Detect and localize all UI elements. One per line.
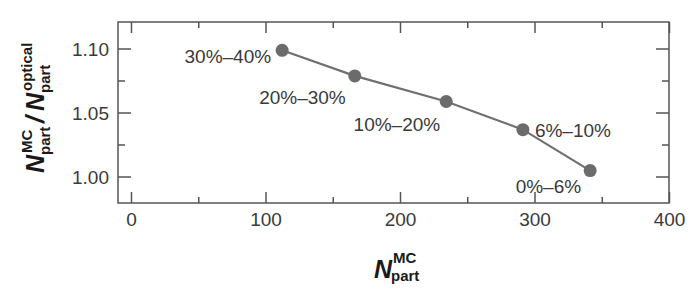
y-axis-tick-labels: 1.001.051.10 xyxy=(72,39,109,188)
point-label: 20%–30% xyxy=(259,87,346,108)
y-axis-title-num-sub: part xyxy=(36,127,53,155)
point-label: 6%–10% xyxy=(535,120,611,141)
x-axis-tick-labels: 0100200300400 xyxy=(126,209,685,230)
y-tick-label: 1.00 xyxy=(72,167,109,188)
y-axis-title-den-sub: part xyxy=(36,65,53,93)
data-point-marker xyxy=(516,123,529,136)
y-axis-title: N MC part / N optical part xyxy=(18,43,53,173)
y-axis-title-sep: / xyxy=(21,113,49,124)
x-tick-label: 200 xyxy=(385,209,417,230)
x-tick-label: 300 xyxy=(519,209,551,230)
y-axis-title-num-sup: MC xyxy=(18,130,35,153)
y-tick-label: 1.10 xyxy=(72,39,109,60)
point-label: 0%–6% xyxy=(516,176,582,197)
x-axis-title: N MC part xyxy=(374,249,419,284)
data-point-marker xyxy=(440,95,453,108)
point-label: 10%–20% xyxy=(354,114,441,135)
point-labels: 30%–40%20%–30%10%–20%6%–10%0%–6% xyxy=(185,46,612,196)
data-point-marker xyxy=(584,164,597,177)
data-point-marker xyxy=(348,69,361,82)
series-markers xyxy=(276,44,597,177)
x-tick-label: 0 xyxy=(126,209,137,230)
x-tick-label: 400 xyxy=(654,209,686,230)
x-tick-label: 100 xyxy=(250,209,282,230)
x-axis-title-sup: MC xyxy=(393,249,416,266)
point-label: 30%–40% xyxy=(185,46,272,67)
chart-canvas: 0100200300400 1.001.051.10 30%–40%20%–30… xyxy=(0,0,700,298)
y-axis-ticks xyxy=(118,49,669,177)
y-axis-title-num-main: N xyxy=(21,154,49,173)
y-axis-title-den-sup: optical xyxy=(18,43,35,91)
x-axis-title-sub: part xyxy=(391,267,419,284)
series-line xyxy=(282,50,590,170)
y-axis-title-den-main: N xyxy=(21,92,49,111)
data-point-marker xyxy=(276,44,289,57)
y-tick-label: 1.05 xyxy=(72,103,109,124)
